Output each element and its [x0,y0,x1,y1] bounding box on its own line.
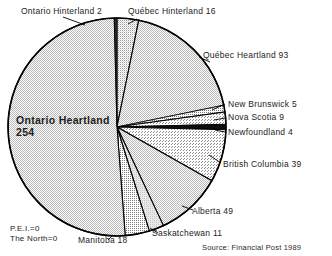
label-ontario-hinterland: Ontario Hinterland 2 [21,6,102,16]
label-ontario-heartland-value: 254 [16,126,34,138]
label-newfoundland: Newfoundland 4 [228,127,293,137]
label-saskatchewan: Saskatchewan 11 [152,228,222,238]
pie-chart-figure: Ontario Hinterland 2 Québec Hinterland 1… [0,0,332,256]
label-the-north-zero: The North=0 [10,234,57,244]
label-ontario-heartland-name: Ontario Heartland [16,114,110,126]
label-quebec-hinterland: Québec Hinterland 16 [128,6,216,16]
label-quebec-heartland: Québec Heartland 93 [203,50,289,60]
label-new-brunswick: New Brunswick 5 [228,99,297,109]
source-note: Source: Financial Post 1989 [202,243,301,253]
label-pei-zero: P.E.I.=0 [10,224,40,234]
label-nova-scotia: Nova Scotia 9 [228,112,284,122]
label-alberta: Alberta 49 [192,206,233,216]
pie-slices [8,18,226,236]
label-british-columbia: British Columbia 39 [223,159,301,169]
label-manitoba: Manitoba 18 [78,235,128,245]
